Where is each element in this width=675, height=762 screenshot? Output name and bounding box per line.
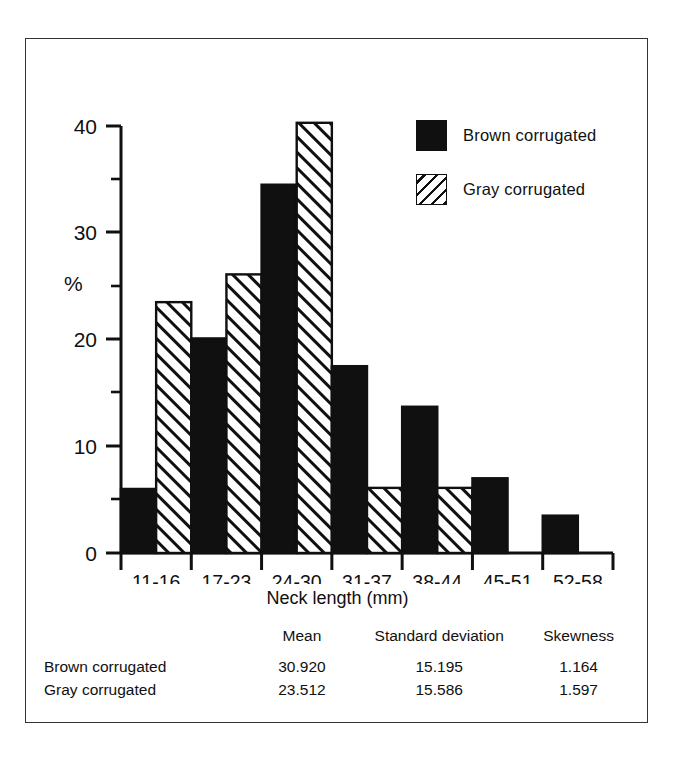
y-tick-label: 40 [74, 115, 97, 138]
bar-brown-corrugated-31-37 [332, 366, 367, 553]
x-tick-label: 24-30 [272, 571, 322, 584]
y-axis-major-ticks [106, 126, 121, 553]
legend-label: Brown corrugated [463, 126, 596, 145]
chart-legend: Brown corrugated Gray corrugated [416, 119, 631, 227]
legend-item-brown-corrugated: Brown corrugated [416, 119, 631, 151]
table-header-blank [38, 625, 247, 656]
legend-item-gray-corrugated: Gray corrugated [416, 173, 631, 205]
table-cell-series-name: Gray corrugated [38, 679, 247, 702]
x-tick-label: 31-37 [342, 571, 392, 584]
x-tick-label: 17-23 [201, 571, 251, 584]
bar-gray-corrugated-17-23 [226, 274, 261, 553]
y-tick-label: 0 [85, 542, 97, 565]
bar-gray-corrugated-11-16 [156, 302, 191, 553]
x-axis-category-ticks [121, 553, 613, 570]
table-header-standard-deviation: Standard deviation [357, 625, 521, 656]
x-tick-labels: 11-1617-2324-3031-3738-4445-5152-58 [132, 571, 603, 584]
x-tick-label: 52-58 [553, 571, 603, 584]
statistics-table: Mean Standard deviation Skewness Brown c… [26, 625, 649, 701]
bar-brown-corrugated-45-51 [472, 478, 507, 553]
table-cell-skewness: 1.597 [521, 679, 636, 702]
x-axis-title: Neck length (mm) [26, 588, 649, 609]
legend-swatch-hatched-icon [416, 174, 447, 205]
x-tick-label: 45-51 [483, 571, 533, 584]
table-row: Brown corrugated 30.920 15.195 1.164 [38, 656, 636, 679]
bar-gray-corrugated-24-30 [297, 123, 332, 553]
table-header-mean: Mean [247, 625, 358, 656]
bar-brown-corrugated-17-23 [191, 338, 226, 553]
x-tick-label: 11-16 [132, 571, 180, 584]
table-cell-skewness: 1.164 [521, 656, 636, 679]
x-tick-label: 38-44 [412, 571, 462, 584]
table-cell-standard-deviation: 15.195 [357, 656, 521, 679]
table-row: Gray corrugated 23.512 15.586 1.597 [38, 679, 636, 702]
table-cell-mean: 30.920 [247, 656, 358, 679]
bar-brown-corrugated-52-58 [543, 516, 578, 553]
legend-swatch-solid-icon [416, 120, 447, 151]
legend-label: Gray corrugated [463, 180, 585, 199]
table-header-skewness: Skewness [521, 625, 636, 656]
y-tick-label: 10 [74, 435, 97, 458]
y-tick-labels: 40 30 20 10 0 [74, 115, 97, 565]
y-tick-label: 30 [74, 221, 97, 244]
table-header-row: Mean Standard deviation Skewness [38, 625, 636, 656]
bar-gray-corrugated-31-37 [367, 488, 402, 553]
bar-brown-corrugated-11-16 [121, 489, 156, 553]
bar-brown-corrugated-24-30 [262, 185, 297, 553]
bar-gray-corrugated-38-44 [437, 488, 472, 553]
table-cell-standard-deviation: 15.586 [357, 679, 521, 702]
figure-frame: 40 30 20 10 0 % 11-1617-2324-3031-3738-4… [25, 38, 648, 723]
y-tick-label: 20 [74, 328, 97, 351]
table-cell-mean: 23.512 [247, 679, 358, 702]
y-axis-title: % [64, 272, 83, 295]
table-cell-series-name: Brown corrugated [38, 656, 247, 679]
bar-brown-corrugated-38-44 [402, 407, 437, 553]
